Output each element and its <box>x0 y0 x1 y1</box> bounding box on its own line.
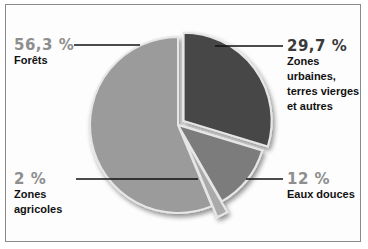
label-eaux: 12 % Eaux douces <box>287 171 355 202</box>
name-forets: Forêts <box>14 53 74 68</box>
value-agricoles: 2 % <box>14 171 62 187</box>
name-urbaines-line-1: Zones urbaines, <box>287 54 368 84</box>
name-agricoles-line-1: Zones <box>14 187 62 202</box>
name-urbaines-line-3: et autres <box>287 99 368 114</box>
pie-slice-zones-0 <box>184 33 272 147</box>
name-urbaines-line-2: terres vierges <box>287 84 368 99</box>
value-eaux: 12 % <box>287 171 355 187</box>
label-agricoles: 2 % Zones agricoles <box>14 171 62 217</box>
value-urbaines: 29,7 % <box>287 38 368 54</box>
value-forets: 56,3 % <box>14 37 74 53</box>
label-forets: 56,3 % Forêts <box>14 37 74 68</box>
name-eaux: Eaux douces <box>287 187 355 202</box>
label-urbaines: 29,7 % Zones urbaines, terres vierges et… <box>287 38 368 114</box>
name-agricoles-line-2: agricoles <box>14 202 62 217</box>
